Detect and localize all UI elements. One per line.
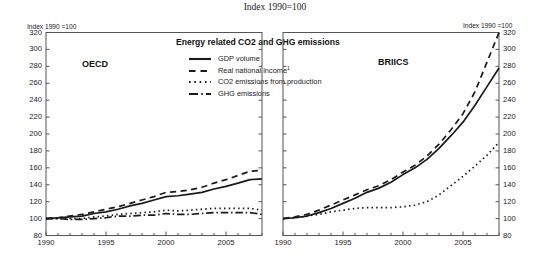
plot-canvas [0,0,550,271]
ytick-label-right-200: 200 [503,129,527,138]
ytick-label-right-240: 240 [503,95,527,104]
ytick-label-left-280: 280 [18,61,42,70]
ytick-label-right-320: 320 [503,28,527,37]
figure-root: Index 1990=100 Index 1990 =100 Index 199… [0,0,550,271]
ytick-label-left-180: 180 [18,146,42,155]
xtick-label-oecd-1995: 1995 [89,238,123,247]
ytick-label-left-120: 120 [18,197,42,206]
ytick-label-left-320: 320 [18,28,42,37]
ytick-label-right-140: 140 [503,180,527,189]
ytick-label-left-240: 240 [18,95,42,104]
xtick-label-oecd-1990: 1990 [29,238,63,247]
ytick-label-right-80: 80 [503,231,527,240]
xtick-label-briics-2000: 2000 [386,238,420,247]
ytick-label-right-160: 160 [503,163,527,172]
ytick-label-right-300: 300 [503,44,527,53]
ytick-label-left-100: 100 [18,214,42,223]
ytick-label-right-260: 260 [503,78,527,87]
xtick-label-briics-2005: 2005 [446,238,480,247]
ytick-label-right-100: 100 [503,214,527,223]
xtick-label-briics-1995: 1995 [326,238,360,247]
ytick-label-right-220: 220 [503,112,527,121]
series-briics-real-national-income [283,33,499,219]
ytick-label-right-280: 280 [503,61,527,70]
xtick-label-briics-1990: 1990 [266,238,300,247]
ytick-label-left-140: 140 [18,180,42,189]
ytick-label-left-300: 300 [18,44,42,53]
ytick-label-left-220: 220 [18,112,42,121]
ytick-label-left-200: 200 [18,129,42,138]
series-briics-co2-emissions-from-production [283,142,499,218]
ytick-label-right-120: 120 [503,197,527,206]
ytick-label-left-160: 160 [18,163,42,172]
ytick-label-right-180: 180 [503,146,527,155]
xtick-label-oecd-2005: 2005 [209,238,243,247]
xtick-label-oecd-2000: 2000 [149,238,183,247]
ytick-label-left-260: 260 [18,78,42,87]
series-briics-gdp-volume [283,68,499,219]
